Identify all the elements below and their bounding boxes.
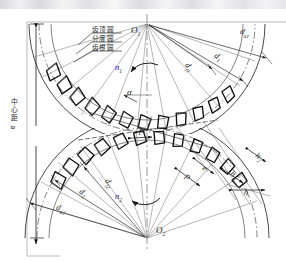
rotation-arrow-n2	[132, 198, 160, 205]
gear2-radial-rays	[31, 130, 258, 239]
drawing-canvas	[0, 0, 286, 262]
circle-callout-leaders	[74, 33, 122, 62]
gear1-construction-lines	[47, 63, 124, 124]
frame-rules	[27, 22, 286, 256]
pressure-angle-marker	[124, 95, 152, 130]
center-distance-label: 中心距 a	[8, 98, 18, 130]
center-distance-dimension	[30, 24, 44, 244]
gear-pair-drawing: O1 O2 齿顶圆 分度圆 齿根圆 中心距 a da1 d1 df1 da2 d…	[0, 0, 286, 262]
upper-diameter-dimensions	[149, 25, 272, 87]
